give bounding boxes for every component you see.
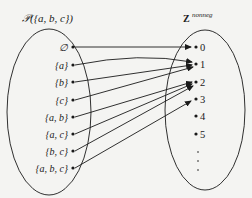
domain-dot [71, 80, 74, 83]
domain-dot [71, 132, 74, 135]
arrow-bc-to-2 [75, 86, 193, 151]
continuation-ellipsis [197, 151, 199, 171]
codomain-element-5: 5 [200, 129, 205, 140]
codomain-dot [194, 62, 197, 65]
domain-elements: ∅ {a} {b} {c} {a, b} {a, c} {b, c} {a, b… [36, 42, 75, 174]
arrow-b-to-1 [75, 65, 192, 82]
domain-element-c: {c} [56, 95, 68, 106]
domain-dot [71, 166, 74, 169]
arrow-ab-to-2 [75, 82, 192, 117]
domain-dot [71, 115, 74, 118]
domain-element-b: {b} [55, 77, 68, 88]
domain-element-bc: {b, c} [46, 146, 68, 157]
codomain-element-1: 1 [200, 59, 205, 70]
codomain-set-title: Z nonneg [183, 11, 213, 24]
domain-element-a: {a} [55, 60, 68, 71]
domain-element-ab: {a, b} [45, 112, 68, 123]
codomain-element-4: 4 [200, 111, 206, 122]
domain-dot [71, 149, 74, 152]
function-diagram: 𝒫({a, b, c}) Z nonneg ∅ {a} {b} {c} {a, … [0, 0, 252, 198]
codomain-set-ellipse [165, 30, 245, 190]
domain-element-empty-set: ∅ [59, 42, 69, 53]
domain-dot [71, 63, 74, 66]
codomain-element-2: 2 [200, 77, 205, 88]
mapping-arrows [75, 47, 193, 168]
arrow-ac-to-2 [75, 84, 192, 134]
domain-element-ac: {a, c} [46, 129, 68, 140]
codomain-dot [194, 45, 197, 48]
codomain-dot [194, 114, 197, 117]
domain-dot [71, 98, 74, 101]
arrow-abc-to-3 [75, 101, 191, 168]
codomain-element-3: 3 [200, 94, 205, 105]
diagram-svg: 𝒫({a, b, c}) Z nonneg ∅ {a} {b} {c} {a, … [0, 0, 252, 198]
codomain-title-base: Z [183, 13, 190, 24]
codomain-title-superscript: nonneg [192, 11, 213, 19]
codomain-elements: 0 1 2 3 4 5 [194, 42, 206, 171]
domain-element-abc: {a, b, c} [36, 163, 68, 174]
codomain-dot [194, 132, 197, 135]
domain-dot [71, 45, 74, 48]
codomain-dot [194, 97, 197, 100]
codomain-dot [194, 80, 197, 83]
codomain-element-0: 0 [200, 42, 205, 53]
domain-set-title: 𝒫({a, b, c}) [22, 12, 73, 25]
arrow-c-to-1 [75, 67, 193, 100]
